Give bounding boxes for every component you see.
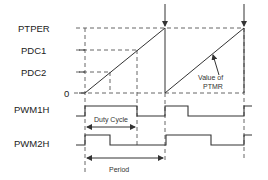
label-pwm1h: PWM1H — [14, 104, 50, 115]
label-ptper: PTPER — [18, 23, 50, 34]
pwm1h-waveform — [76, 106, 252, 116]
label-pdc2: PDC2 — [21, 67, 46, 78]
label-pwm2h: PWM2H — [14, 138, 50, 149]
pwm-timing-diagram: PTPER PDC1 PDC2 0 Value of PTMR — [0, 0, 268, 180]
duty-cycle-label: Duty Cycle — [94, 116, 128, 124]
y-axis-ticks — [79, 50, 85, 93]
ptmr-label-line1: Value of — [198, 74, 223, 81]
period-label: Period — [109, 166, 129, 173]
label-zero: 0 — [64, 88, 69, 99]
ptmr-callout-arrow-icon — [213, 55, 219, 75]
pwm2h-waveform — [76, 135, 252, 145]
ptmr-label-line2: PTMR — [203, 83, 223, 90]
reset-arrows — [165, 4, 244, 26]
label-pdc1: PDC1 — [21, 45, 46, 56]
ramp-1 — [85, 28, 165, 93]
